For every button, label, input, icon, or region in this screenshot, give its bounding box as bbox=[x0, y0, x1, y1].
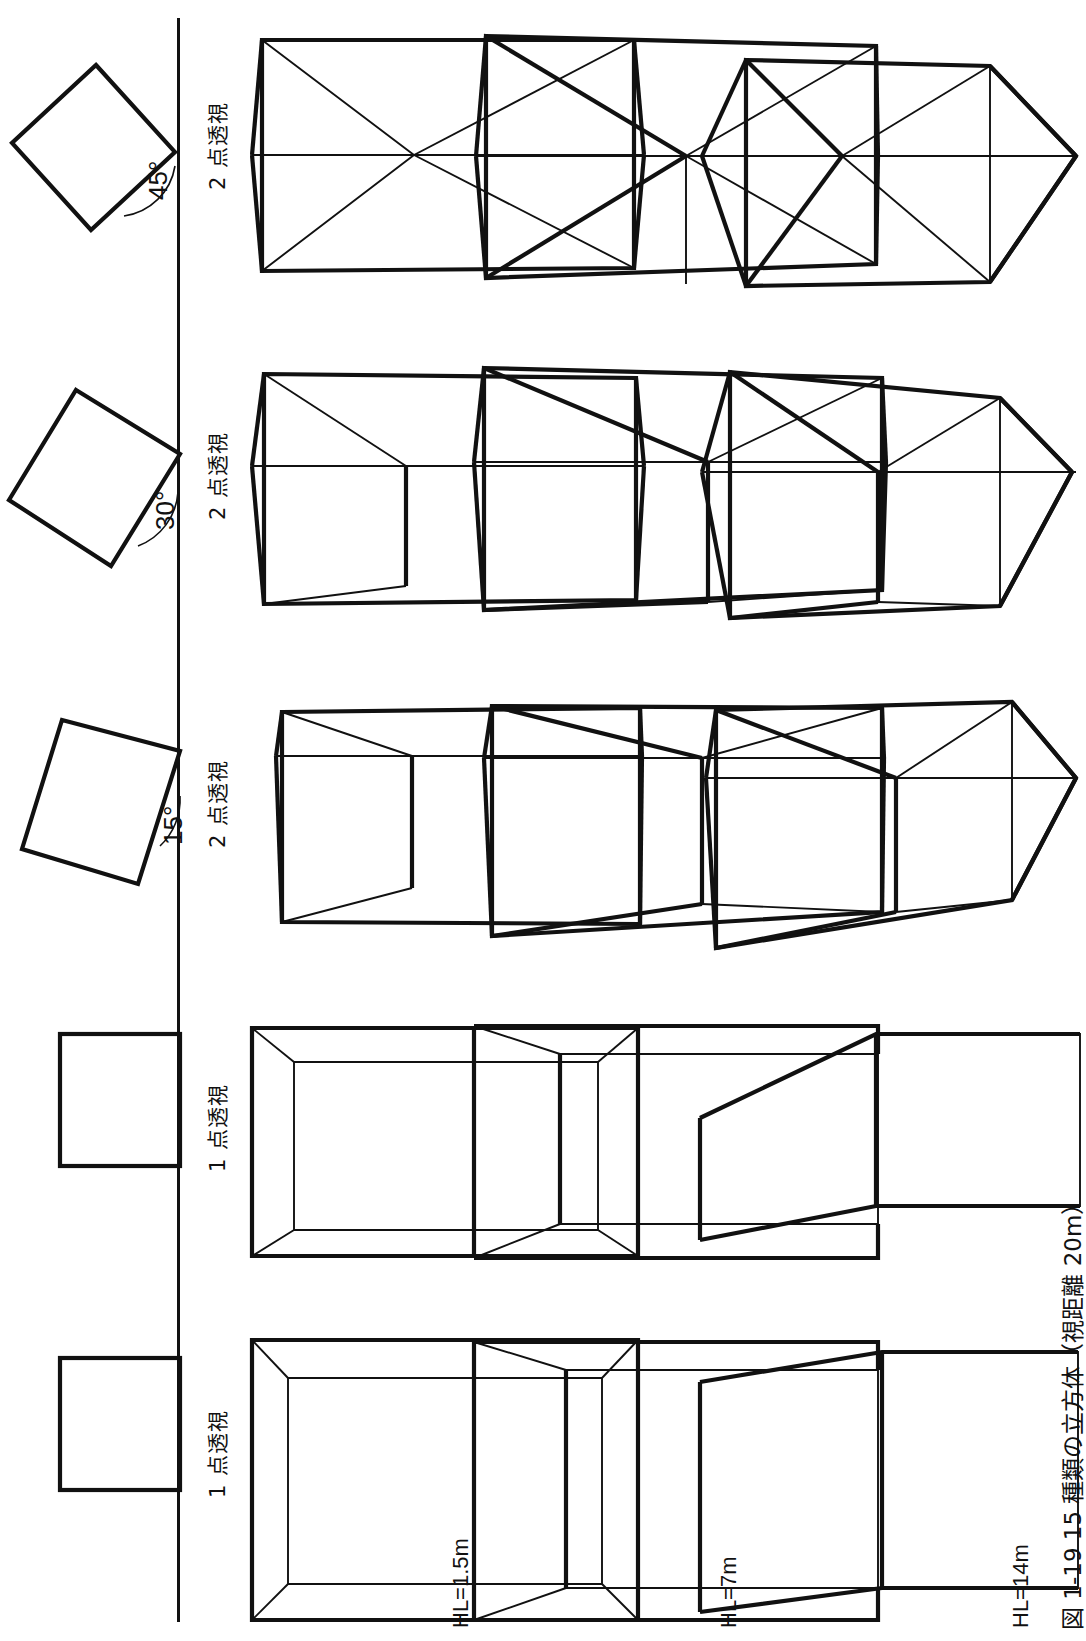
column-label-45: 2 点透視 bbox=[208, 102, 229, 190]
cube-15-hl14 bbox=[700, 680, 1080, 960]
angle-label-45: 45° bbox=[145, 161, 171, 200]
column-label-1pt-a: 1 点透視 bbox=[208, 1410, 229, 1498]
cube-45-hl14 bbox=[700, 14, 1080, 298]
plan-square-1pt-b bbox=[58, 1032, 182, 1168]
figure-caption: 図 1-19 15 種類の立方体（視距離 20m） bbox=[1062, 1192, 1085, 1630]
angle-label-15: 15° bbox=[160, 806, 186, 845]
column-label-30: 2 点透視 bbox=[208, 432, 229, 520]
angle-label-30: 30° bbox=[152, 491, 178, 530]
column-label-15: 2 点透視 bbox=[208, 760, 229, 848]
cube-1pt-b-hl14 bbox=[696, 1014, 1082, 1274]
column-label-1pt-b: 1 点透視 bbox=[208, 1084, 229, 1172]
hl-label-14m: HL=14m bbox=[1010, 1544, 1032, 1628]
cube-30-hl14 bbox=[700, 350, 1080, 634]
plan-square-1pt-a bbox=[58, 1356, 182, 1492]
hl-label-7m: HL=7m bbox=[718, 1556, 740, 1628]
figure-plate: 45° 30° 15° 2 点透視 2 点透視 2 点透視 1 点透視 1 点透… bbox=[0, 0, 1086, 1641]
hl-label-1_5m: HL=1.5m bbox=[450, 1538, 472, 1628]
